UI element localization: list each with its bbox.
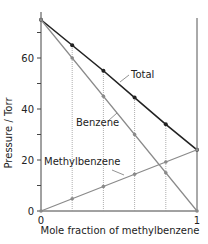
data-point [164, 171, 168, 175]
data-point [164, 160, 168, 164]
data-point [102, 185, 106, 189]
data-point [70, 197, 74, 201]
y-axis-label: Pressure / Torr [3, 97, 14, 169]
data-point [195, 209, 199, 213]
label-leader-line [112, 170, 124, 175]
data-point [39, 209, 43, 213]
y-tick-label: 60 [21, 53, 34, 64]
vapor-pressure-chart: 020406001TotalBenzeneMethylbenzene Press… [0, 0, 208, 244]
series-label-benzene: Benzene [76, 117, 119, 128]
data-point [133, 133, 137, 137]
data-point [102, 94, 106, 98]
data-point [133, 172, 137, 176]
series-label-methylbenzene: Methylbenzene [44, 156, 120, 167]
data-point [70, 56, 74, 60]
label-leader-line [120, 75, 129, 82]
x-axis-label: Mole fraction of methylbenzene [41, 225, 200, 236]
y-tick-label: 0 [28, 206, 34, 217]
data-point [195, 148, 199, 152]
y-tick-label: 40 [21, 104, 34, 115]
series-line-total [41, 20, 197, 150]
series-label-total: Total [130, 69, 154, 80]
data-point [39, 18, 43, 22]
series-line-benzene [41, 20, 197, 211]
data-point [101, 69, 105, 73]
y-tick-label: 20 [21, 155, 34, 166]
data-point [133, 96, 137, 100]
data-point [164, 122, 168, 126]
data-point [70, 43, 74, 47]
